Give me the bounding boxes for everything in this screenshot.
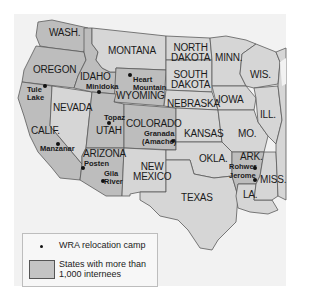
legend-camp-dot-icon [40,245,43,248]
map-legend: WRA relocation camp States with more tha… [22,233,158,287]
camp-marker-heart-mountain [128,73,132,77]
camp-marker-jerome [253,178,257,182]
legend-shaded-swatch [29,260,55,279]
label-idaho: IDAHO [80,72,111,82]
label-wyoming: WYOMING [116,91,165,101]
label-utah: UTAH [96,126,122,136]
label-calif: CALIF. [31,126,60,136]
camp-label-gila-river: GilaRiver [104,170,123,186]
label-colorado: COLORADO [126,119,182,129]
camp-marker-minidoka [97,90,101,94]
label-ill: ILL. [260,110,276,120]
camp-label-manzanar: Manzanar [40,145,75,153]
camp-marker-granada [171,139,175,143]
legend-shaded-label: States with more than1,000 internees [59,259,146,279]
camp-label-jerome: Jerome [229,172,256,180]
label-kansas: KANSAS [184,129,223,139]
camp-marker-rohwer [253,166,257,170]
label-montana: MONTANA [108,46,156,56]
label-la: LA. [243,190,257,200]
label-texas: TEXAS [181,193,213,203]
camp-label-tule-lake: TuleLake [27,86,44,102]
legend-camp-label: WRA relocation camp [59,240,146,250]
label-wash: WASH. [49,28,80,38]
label-nebraska: NEBRASKA [167,99,220,109]
label-north-dakota: NORTHDAKOTA [171,43,210,63]
label-new-mexico: NEWMEXICO [133,162,171,182]
label-south-dakota: SOUTHDAKOTA [171,70,210,90]
label-arizona: ARIZONA [83,149,126,159]
camp-label-minidoka: Minidoka [86,83,119,91]
label-mo: MO. [238,129,256,139]
camp-label-heart-mountain: HeartMountain [133,76,166,92]
label-nevada: NEVADA [53,103,92,113]
label-oregon: OREGON [33,65,76,75]
label-okla: OKLA. [199,154,227,164]
label-ark: ARK. [240,152,263,162]
label-wis: WIS. [250,70,271,80]
camp-label-posten: Posten [84,160,109,168]
label-minn: MINN. [215,53,242,63]
camp-label-granada: Granada(Amache) [142,130,176,146]
camp-marker-topaz [107,121,111,125]
label-iowa: IOWA [218,95,244,105]
label-miss: MISS. [260,175,286,185]
